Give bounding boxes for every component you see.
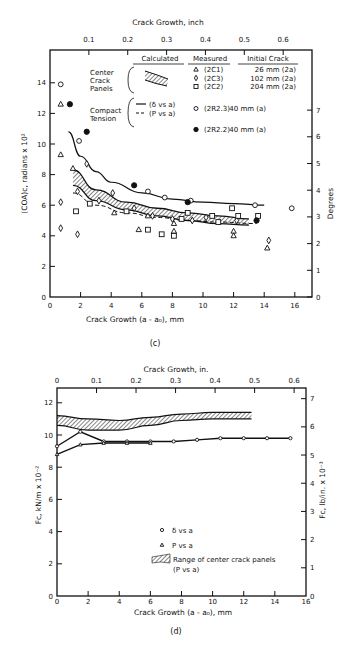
- y2-tick-label: 4: [316, 187, 321, 195]
- circle-open-marker: [146, 189, 151, 194]
- x-tick-label: 0: [48, 302, 52, 310]
- legend-band-swatch: [152, 554, 170, 563]
- legend-crack: 102 mm (2a): [250, 75, 296, 83]
- y-axis-title: Fc, kN/m x 10⁻²: [34, 466, 43, 525]
- diamond-marker: [59, 225, 63, 232]
- legend-group-label: Panels: [90, 85, 113, 93]
- x2-tick-label: 0.6: [278, 36, 290, 44]
- x-tick-label: 0: [55, 598, 59, 606]
- y-tick-label: 12: [37, 110, 46, 118]
- x2-axis-title: Crack Growth, inch: [132, 18, 204, 27]
- triangle-marker: [112, 210, 117, 215]
- x-tick-label: 16: [290, 302, 299, 310]
- square-marker: [194, 85, 198, 89]
- legend-item-p: P vs a: [172, 542, 193, 550]
- x2-tick-label: 0.3: [170, 377, 181, 385]
- legend-crack: 204 mm (2a): [250, 83, 296, 91]
- triangle-marker: [58, 152, 63, 157]
- legend-header-initial-crack: Initial Crack: [247, 55, 289, 63]
- caption-d: (d): [170, 627, 181, 636]
- y-tick-label: 4: [42, 232, 47, 240]
- y2-tick-label: 4: [310, 480, 315, 488]
- y-tick-label: 10: [44, 432, 53, 440]
- circle-open-marker: [58, 82, 63, 87]
- x-tick-label: 2: [78, 302, 82, 310]
- y-tick-label: 12: [44, 399, 53, 407]
- x-tick-label: 4: [117, 598, 122, 606]
- y2-tick-label: 1: [310, 564, 314, 572]
- square-marker: [216, 220, 221, 225]
- square-marker: [146, 227, 151, 232]
- circle-open-marker: [162, 195, 167, 200]
- triangle-marker: [70, 166, 75, 171]
- y-tick-label: 6: [42, 202, 47, 210]
- triangle-marker: [58, 101, 63, 106]
- x-tick-label: 14: [270, 598, 279, 606]
- x-axis-title: Crack Growth (a - a₀), mm: [86, 315, 184, 324]
- x-tick-label: 12: [239, 598, 248, 606]
- y2-tick-label: 7: [310, 395, 314, 403]
- diamond-marker: [194, 75, 197, 81]
- triangle-marker: [231, 233, 236, 238]
- y-tick-label: 2: [49, 560, 53, 568]
- legend-spec: (2R2.2): [204, 126, 230, 134]
- x2-tick-label: 0.6: [289, 377, 301, 385]
- y2-axis-title: Degrees: [326, 188, 335, 219]
- x2-tick-label: 0.1: [91, 377, 102, 385]
- y-tick-label: 10: [37, 141, 46, 149]
- chart-c: 0246810121416Crack Growth (a - a₀), mm(c…: [20, 18, 335, 348]
- circle-open-marker: [265, 437, 268, 440]
- y-tick-label: 2: [42, 263, 46, 271]
- y-axis-title: (COA)c, radians x 10²: [20, 133, 29, 213]
- x2-tick-label: 0.4: [200, 36, 212, 44]
- x2-tick-label: 0.3: [161, 36, 172, 44]
- legend-spec: (2C3): [204, 75, 224, 83]
- circle-filled-marker: [194, 127, 198, 131]
- y-tick-label: 0: [49, 593, 53, 601]
- legend-group-label: Compact: [90, 107, 122, 115]
- triangle-marker: [136, 227, 141, 232]
- y2-tick-label: 3: [316, 213, 320, 221]
- square-marker: [172, 233, 177, 238]
- legend-spec: (2C2): [204, 83, 224, 91]
- circle-filled-marker: [84, 129, 89, 134]
- square-marker: [230, 206, 235, 211]
- y2-tick-label: 5: [316, 160, 320, 168]
- circle-open-marker: [289, 206, 294, 211]
- x-tick-label: 8: [179, 598, 183, 606]
- triangle-marker: [265, 245, 270, 250]
- triangle-marker: [79, 443, 83, 446]
- circle-filled-marker: [254, 218, 259, 223]
- x2-tick-label: 0.2: [130, 377, 141, 385]
- legend-brace: [128, 67, 134, 93]
- x-tick-label: 10: [208, 598, 217, 606]
- y2-tick-label: 2: [310, 536, 314, 544]
- square-marker: [74, 209, 79, 214]
- legend-item-range: Range of center crack panels: [173, 556, 276, 564]
- y-tick-label: 8: [49, 464, 53, 472]
- figure: 0246810121416Crack Growth (a - a₀), mm(c…: [0, 0, 347, 649]
- square-marker: [210, 214, 215, 219]
- square-marker: [179, 217, 184, 222]
- triangle-marker: [194, 67, 198, 71]
- circle-open-marker: [55, 445, 58, 448]
- y-tick-label: 8: [42, 171, 46, 179]
- circle-open-marker: [289, 437, 292, 440]
- circle-open-marker: [194, 107, 198, 111]
- legend-crack: 26 mm (2a): [255, 66, 296, 74]
- y-tick-label: 4: [49, 528, 54, 536]
- chart-d: 0246810121416Crack Growth (a - a₀), mm(d…: [34, 365, 327, 636]
- x2-tick-label: 0.5: [249, 377, 260, 385]
- legend-header-measured: Measured: [193, 55, 227, 63]
- x2-tick-label: 0.4: [210, 377, 222, 385]
- x-tick-label: 10: [199, 302, 208, 310]
- square-marker: [236, 214, 241, 219]
- y-tick-label: 14: [37, 79, 46, 87]
- square-marker: [124, 209, 129, 214]
- circle-filled-marker: [67, 102, 72, 107]
- y2-tick-label: 0: [310, 593, 314, 601]
- x-tick-label: 6: [148, 598, 153, 606]
- triangle-marker: [171, 228, 176, 233]
- legend-group-label: Center: [90, 69, 114, 77]
- y-tick-label: 6: [49, 496, 54, 504]
